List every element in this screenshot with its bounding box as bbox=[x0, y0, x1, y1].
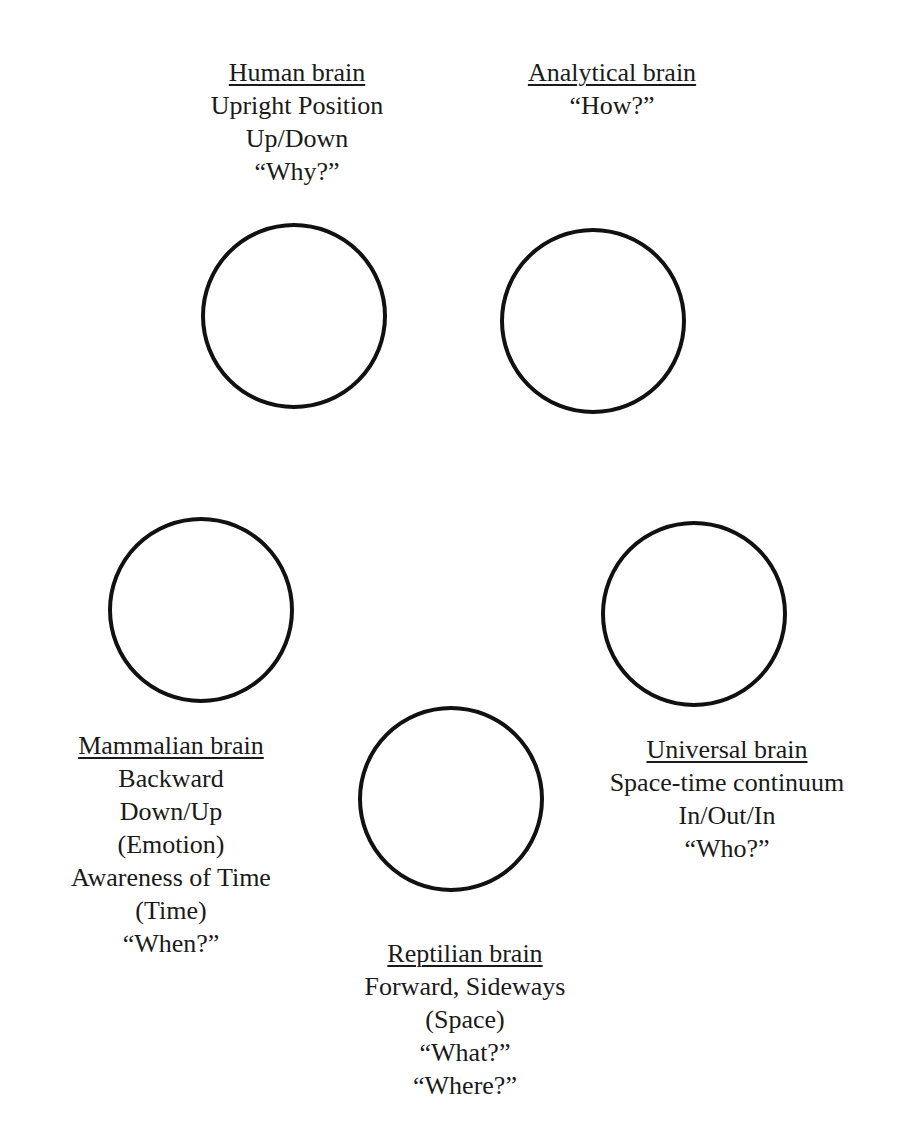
universal-brain-title: Universal brain bbox=[610, 733, 845, 766]
mammalian-brain-line: Backward bbox=[71, 762, 271, 795]
mammalian-brain-line: (Time) bbox=[71, 894, 271, 927]
universal-brain-line: Space-time continuum bbox=[610, 766, 845, 799]
mammalian-brain-title: Mammalian brain bbox=[71, 729, 271, 762]
mammalian-brain-circle bbox=[110, 519, 292, 701]
reptilian-brain-circle bbox=[360, 708, 542, 890]
universal-brain-line: “Who?” bbox=[610, 832, 845, 865]
reptilian-brain-title: Reptilian brain bbox=[365, 937, 566, 970]
universal-brain-circle bbox=[603, 523, 785, 705]
reptilian-brain-line: “Where?” bbox=[365, 1069, 566, 1102]
reptilian-brain-line: Forward, Sideways bbox=[365, 970, 566, 1003]
human-brain-line: “Why?” bbox=[211, 155, 384, 188]
reptilian-brain-line: (Space) bbox=[365, 1003, 566, 1036]
mammalian-brain-line: (Emotion) bbox=[71, 828, 271, 861]
analytical-brain-circle bbox=[502, 230, 684, 412]
human-brain-circle bbox=[203, 225, 385, 407]
universal-brain-line: In/Out/In bbox=[610, 799, 845, 832]
universal-brain-label: Universal brain Space-time continuum In/… bbox=[610, 733, 845, 865]
mammalian-brain-line: Awareness of Time bbox=[71, 861, 271, 894]
mammalian-brain-line: “When?” bbox=[71, 927, 271, 960]
reptilian-brain-line: “What?” bbox=[365, 1036, 566, 1069]
reptilian-brain-label: Reptilian brain Forward, Sideways (Space… bbox=[365, 937, 566, 1102]
analytical-brain-title: Analytical brain bbox=[528, 56, 696, 89]
mammalian-brain-line: Down/Up bbox=[71, 795, 271, 828]
analytical-brain-line: “How?” bbox=[528, 89, 696, 122]
analytical-brain-label: Analytical brain “How?” bbox=[528, 56, 696, 122]
mammalian-brain-label: Mammalian brain Backward Down/Up (Emotio… bbox=[71, 729, 271, 960]
human-brain-line: Upright Position bbox=[211, 89, 384, 122]
human-brain-line: Up/Down bbox=[211, 122, 384, 155]
human-brain-title: Human brain bbox=[211, 56, 384, 89]
human-brain-label: Human brain Upright Position Up/Down “Wh… bbox=[211, 56, 384, 188]
